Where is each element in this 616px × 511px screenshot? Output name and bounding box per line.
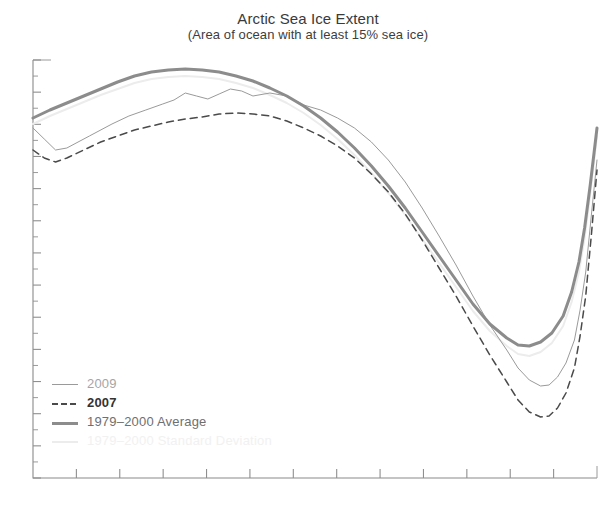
legend-label-2007: 2007	[87, 395, 117, 410]
legend-item-average: 1979–2000 Average	[52, 412, 332, 431]
legend-label-average: 1979–2000 Average	[87, 414, 207, 429]
series-line-1979-2000-average	[33, 69, 597, 346]
series-group	[33, 69, 597, 417]
legend-item-2009: 2009	[52, 374, 332, 393]
series-line-1979-2000-standard-deviation	[33, 76, 597, 356]
chart-legend: 2009 2007 1979–2000 Average 1979–2000 St…	[52, 374, 332, 450]
legend-item-stddev: 1979–2000 Standard Deviation	[52, 431, 332, 450]
legend-label-2009: 2009	[87, 376, 117, 391]
legend-label-stddev: 1979–2000 Standard Deviation	[87, 433, 272, 448]
series-line-2007	[33, 113, 597, 417]
legend-swatch-2009-icon	[52, 378, 78, 390]
legend-swatch-average-icon	[52, 416, 78, 428]
legend-item-2007: 2007	[52, 393, 332, 412]
legend-swatch-stddev-icon	[52, 435, 78, 447]
chart-container: Arctic Sea Ice Extent (Area of ocean wit…	[0, 0, 616, 511]
legend-swatch-2007-icon	[52, 397, 78, 409]
